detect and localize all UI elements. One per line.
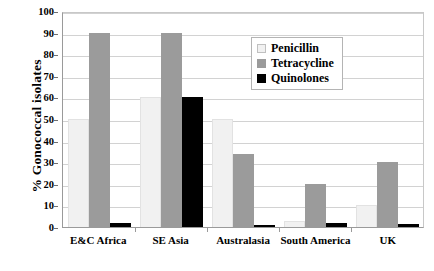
bar-group <box>135 13 207 227</box>
bar-tetracycline <box>233 154 254 227</box>
y-axis-tick-label: 70 <box>44 72 55 82</box>
bar-quinolones <box>254 225 275 227</box>
legend: PenicillinTetracyclineQuinolones <box>251 37 343 90</box>
y-axis-tick-label: 20 <box>44 180 55 190</box>
y-axis-tick <box>54 142 58 143</box>
y-axis-tick <box>54 206 58 207</box>
legend-label: Penicillin <box>271 42 319 55</box>
y-axis-tick-label: 100 <box>38 7 54 17</box>
bar-set <box>63 13 135 227</box>
legend-item: Quinolones <box>257 72 334 85</box>
bar-penicillin <box>284 221 305 227</box>
y-axis-tick <box>54 77 58 78</box>
x-axis-tick-label: E&C Africa <box>62 234 134 246</box>
x-axis-tick-label: South America <box>279 234 351 246</box>
x-axis-tick <box>351 227 352 232</box>
x-axis-tick-label: Australasia <box>207 234 279 246</box>
legend-swatch-icon <box>257 44 266 53</box>
y-axis-tick-label: 80 <box>44 50 55 60</box>
y-axis-tick <box>54 228 58 229</box>
bar-penicillin <box>212 119 233 227</box>
y-axis-tick <box>54 55 58 56</box>
bar-quinolones <box>398 224 419 227</box>
y-axis-tick-labels: 0102030405060708090100 <box>14 0 58 240</box>
bar-groups <box>63 13 423 227</box>
bar-quinolones <box>182 97 203 227</box>
x-axis-tick <box>279 227 280 232</box>
y-axis-tick-label: 50 <box>44 115 55 125</box>
x-axis-tick-label: SE Asia <box>134 234 206 246</box>
y-axis-tick-label: 60 <box>44 93 55 103</box>
bar-quinolones <box>110 223 131 227</box>
y-axis-tick <box>54 120 58 121</box>
y-axis-tick <box>54 12 58 13</box>
y-axis-tick-label: 30 <box>44 158 55 168</box>
bar-group <box>351 13 423 227</box>
bar-set <box>135 13 207 227</box>
legend-label: Quinolones <box>271 72 329 85</box>
y-axis-tick <box>54 98 58 99</box>
bar-penicillin <box>68 119 89 227</box>
x-axis-tick-labels: E&C AfricaSE AsiaAustralasiaSouth Americ… <box>62 234 424 246</box>
bar-penicillin <box>140 97 161 227</box>
x-axis-tick <box>207 227 208 232</box>
bar-set <box>351 13 423 227</box>
bar-chart: % Gonococcal isolates 010203040506070809… <box>0 0 434 271</box>
legend-item: Penicillin <box>257 42 334 55</box>
bar-tetracycline <box>305 184 326 227</box>
bar-penicillin <box>356 205 377 227</box>
legend-swatch-icon <box>257 74 266 83</box>
y-axis-tick-label: 90 <box>44 29 55 39</box>
y-axis-tick-label: 10 <box>44 201 55 211</box>
bar-tetracycline <box>89 33 110 227</box>
x-axis-tick-label: UK <box>352 234 424 246</box>
x-axis-tick <box>135 227 136 232</box>
y-axis-tick <box>54 185 58 186</box>
y-axis-tick <box>54 34 58 35</box>
y-axis-tick-label: 40 <box>44 137 55 147</box>
legend-item: Tetracycline <box>257 57 334 70</box>
bar-quinolones <box>326 223 347 227</box>
bar-tetracycline <box>161 33 182 227</box>
y-axis-tick <box>54 163 58 164</box>
bar-group <box>63 13 135 227</box>
legend-label: Tetracycline <box>271 57 334 70</box>
legend-swatch-icon <box>257 59 266 68</box>
plot-area <box>62 12 424 228</box>
bar-tetracycline <box>377 162 398 227</box>
